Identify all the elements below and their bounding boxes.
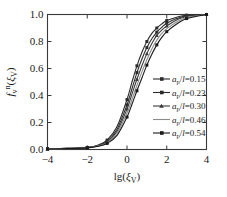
series-marker-0 <box>165 19 168 22</box>
y-axis-tick-labels: 0.00.20.40.60.81.0 <box>30 8 44 155</box>
legend-marker-1 <box>160 91 164 95</box>
legend-label-0: ap/l=0.15 <box>172 74 206 85</box>
series-marker-0 <box>135 64 138 67</box>
series-marker-4 <box>185 17 188 20</box>
chart-canvas: −4−2024 0.00.20.40.60.81.0 lg(ξV) fvn(ξV… <box>0 0 227 197</box>
legend-marker-0 <box>160 77 164 81</box>
y-tick-label: 0.4 <box>30 89 44 101</box>
chart-figure: −4−2024 0.00.20.40.60.81.0 lg(ξV) fvn(ξV… <box>0 0 227 197</box>
y-tick-label: 1.0 <box>30 8 44 20</box>
series-marker-4 <box>86 146 89 149</box>
series-marker-4 <box>126 116 129 119</box>
series-marker-1 <box>145 46 148 49</box>
series-marker-1 <box>155 31 158 34</box>
series-marker-4 <box>106 142 109 145</box>
x-axis-title-close: ) <box>137 170 141 183</box>
x-tick-label: 0 <box>124 153 130 165</box>
legend-label-4: ap/l=0.54 <box>172 128 206 139</box>
y-tick-label: 0.6 <box>30 62 44 74</box>
x-tick-label: 4 <box>204 153 210 165</box>
legend-item-2[interactable]: ap/l=0.30 <box>153 101 206 112</box>
x-axis-title-main: lg( <box>114 170 127 183</box>
series-marker-4 <box>145 64 148 67</box>
y-tick-label: 0.2 <box>30 116 44 128</box>
series-marker-4 <box>205 13 208 16</box>
series-marker-4 <box>155 43 158 46</box>
y-tick-label: 0.8 <box>30 35 44 47</box>
series-marker-4 <box>135 89 138 92</box>
legend-label-2: ap/l=0.30 <box>172 101 206 112</box>
legend-label-3: ap/l=0.46 <box>172 115 206 126</box>
series-marker-4 <box>165 30 168 33</box>
legend-marker-4 <box>160 131 164 135</box>
x-tick-label: −2 <box>81 153 93 165</box>
y-tick-label: 0.0 <box>30 143 44 155</box>
series-marker-0 <box>155 27 158 30</box>
legend-item-1[interactable]: ap/l=0.23 <box>153 88 206 99</box>
series-marker-0 <box>145 40 148 43</box>
series-marker-4 <box>46 147 49 150</box>
legend-item-4[interactable]: ap/l=0.54 <box>153 128 206 139</box>
legend-item-0[interactable]: ap/l=0.15 <box>153 74 206 85</box>
series-marker-2 <box>145 52 149 56</box>
chart-legend: ap/l=0.15ap/l=0.23ap/l=0.30ap/l=0.46ap/l… <box>153 74 206 139</box>
svg-text:fvn(ξV): fvn(ξV) <box>3 67 19 96</box>
y-axis-title: fvn(ξV) <box>3 67 19 96</box>
series-marker-1 <box>135 71 138 74</box>
x-axis-title: lg(ξV) <box>114 170 141 185</box>
x-axis-tick-labels: −4−2024 <box>42 153 210 165</box>
legend-item-3[interactable]: ap/l=0.46 <box>153 115 206 126</box>
x-tick-label: 2 <box>164 153 170 165</box>
svg-text:lg(ξV): lg(ξV) <box>114 170 141 185</box>
legend-label-1: ap/l=0.23 <box>172 88 206 99</box>
y-axis-title-close: ) <box>4 67 17 71</box>
